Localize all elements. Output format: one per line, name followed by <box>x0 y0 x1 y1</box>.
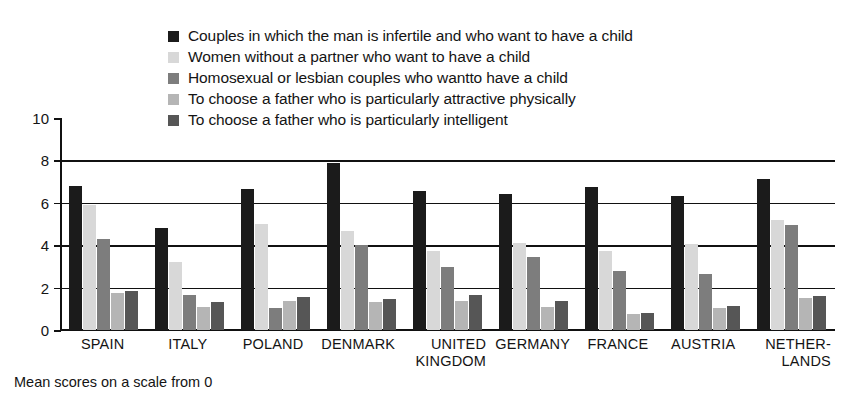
bar <box>671 196 684 330</box>
bar <box>211 302 224 330</box>
bar <box>641 313 654 330</box>
bar-group <box>663 118 749 330</box>
bar <box>685 244 698 330</box>
bar <box>441 267 454 330</box>
bar <box>369 302 382 330</box>
bar <box>727 306 740 330</box>
bar <box>699 274 712 330</box>
legend-item-label: Women without a partner who want to have… <box>188 47 530 67</box>
bar-group <box>404 118 490 330</box>
bar <box>197 307 210 330</box>
plot-area: 0246810 <box>60 118 835 330</box>
bar <box>111 293 124 330</box>
legend-item-label: Homosexual or lesbian couples who wantto… <box>188 68 568 88</box>
bar-group <box>232 118 318 330</box>
x-axis-label: POLAND <box>230 336 315 370</box>
bar <box>585 187 598 330</box>
bar <box>799 298 812 330</box>
chart-footnote: Mean scores on a scale from 0 <box>14 374 212 390</box>
bar <box>327 163 340 330</box>
legend-item-label: Couples in which the man is infertile an… <box>188 26 633 46</box>
bar <box>513 243 526 330</box>
y-axis-tick-label: 10 <box>32 110 49 127</box>
bar-group <box>749 118 835 330</box>
bar <box>527 257 540 330</box>
bar <box>255 224 268 330</box>
x-axis-label: FRANCE <box>575 336 660 370</box>
bar <box>183 295 196 330</box>
y-axis-tick-label: 0 <box>41 322 49 339</box>
bar <box>785 225 798 330</box>
bar <box>813 296 826 330</box>
y-axis-tick-label: 2 <box>41 279 49 296</box>
bar-groups <box>60 118 835 330</box>
x-axis-label: UNITED KINGDOM <box>401 336 490 370</box>
legend-item-label: To choose a father who is particularly a… <box>188 89 576 109</box>
legend-item: Women without a partner who want to have… <box>168 47 633 67</box>
bar <box>427 251 440 331</box>
bar <box>713 308 726 330</box>
bar <box>455 301 468 330</box>
bar <box>383 299 396 330</box>
bar <box>599 251 612 331</box>
bar <box>97 239 110 330</box>
bar <box>413 191 426 330</box>
bar-group <box>491 118 577 330</box>
bar-group <box>577 118 663 330</box>
bar <box>627 314 640 330</box>
bar <box>269 308 282 330</box>
x-axis-label: SPAIN <box>60 336 145 370</box>
bar-chart: Couples in which the man is infertile an… <box>0 0 858 408</box>
bar <box>541 307 554 330</box>
legend-swatch-icon <box>168 52 179 63</box>
legend-swatch-icon <box>168 94 179 105</box>
bar <box>355 245 368 330</box>
bar <box>241 189 254 330</box>
x-axis-label: GERMANY <box>490 336 575 370</box>
legend-item: Homosexual or lesbian couples who wantto… <box>168 68 633 88</box>
bar <box>757 179 770 330</box>
bar <box>499 194 512 330</box>
y-axis-tick-label: 4 <box>41 237 49 254</box>
x-axis-label: NETHER- LANDS <box>746 336 835 370</box>
legend-swatch-icon <box>168 31 179 42</box>
bar <box>555 301 568 330</box>
bar <box>283 301 296 330</box>
bar-group <box>60 118 146 330</box>
bar <box>155 228 168 330</box>
bar <box>771 220 784 330</box>
bar-group <box>146 118 232 330</box>
y-axis-tick-label: 6 <box>41 194 49 211</box>
bar <box>613 271 626 330</box>
legend-item: To choose a father who is particularly a… <box>168 89 633 109</box>
bar <box>125 291 138 330</box>
x-axis-label: ITALY <box>145 336 230 370</box>
bar <box>297 297 310 330</box>
y-axis-tick-label: 8 <box>41 152 49 169</box>
legend-swatch-icon <box>168 73 179 84</box>
x-axis-labels: SPAINITALYPOLANDDENMARKUNITED KINGDOMGER… <box>60 336 835 370</box>
bar <box>469 295 482 330</box>
bar <box>83 205 96 330</box>
bar <box>169 262 182 330</box>
bar <box>341 231 354 330</box>
x-axis-label: AUSTRIA <box>661 336 746 370</box>
y-axis-tick <box>54 330 61 332</box>
bar <box>69 186 82 330</box>
x-axis-label: DENMARK <box>316 336 401 370</box>
bar-group <box>318 118 404 330</box>
chart-legend: Couples in which the man is infertile an… <box>168 26 633 130</box>
legend-item: Couples in which the man is infertile an… <box>168 26 633 46</box>
